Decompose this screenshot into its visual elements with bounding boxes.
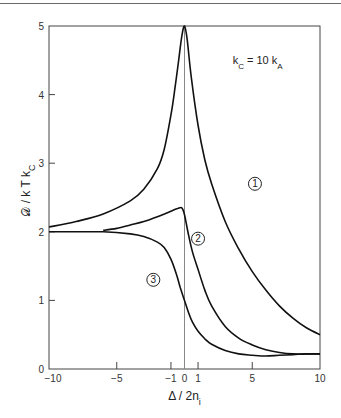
y-tick-label: 3 (38, 158, 44, 169)
x-tick-label: 1 (195, 373, 201, 384)
y-tick-label: 5 (38, 21, 44, 32)
kc-ratio-annotation: kC = 10 kA (233, 54, 284, 71)
x-tick-label: 10 (314, 373, 326, 384)
y-tick-label: 1 (38, 295, 44, 306)
axes: −10−5−101510012345 (38, 21, 326, 384)
y-tick-label: 2 (38, 227, 44, 238)
y-tick-label: 4 (38, 90, 44, 101)
x-tick-label: −10 (45, 373, 62, 384)
y-tick-label: 0 (38, 364, 44, 375)
curve-label-2: 2 (195, 233, 201, 244)
x-axis-title: Δ / 2ni (168, 389, 201, 407)
curve-2 (103, 207, 320, 354)
x-tick-label: −1 (165, 373, 177, 384)
curve-label-1: 1 (252, 178, 258, 189)
x-tick-label: 0 (182, 373, 188, 384)
curve-label-3: 3 (151, 274, 157, 285)
x-tick-label: 5 (249, 373, 255, 384)
x-tick-label: −5 (111, 373, 123, 384)
y-axis-title: 𝒟 / k T kC (19, 164, 37, 217)
line-chart: −10−5−101510012345 Δ / 2ni𝒟 / k T kCkC =… (0, 0, 341, 418)
